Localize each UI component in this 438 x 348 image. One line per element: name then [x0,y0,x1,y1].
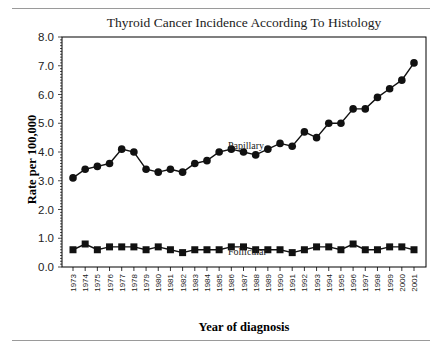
data-point [94,163,102,171]
y-tick-label: 8.0 [38,31,54,43]
x-tick-label: 1977 [118,273,127,291]
data-point [118,145,126,153]
data-point [276,140,284,148]
data-point [143,246,150,253]
x-tick-label: 1979 [142,273,151,291]
data-point [203,157,211,165]
x-tick-label: 1978 [130,273,139,291]
x-tick-label: 2000 [398,273,407,291]
x-tick-label: 1999 [386,273,395,291]
data-point [350,241,357,248]
y-tick-label: 1.0 [38,232,54,244]
data-point [313,134,321,142]
data-point [142,165,150,173]
y-tick-label: 0.0 [38,261,54,273]
data-point [167,165,175,173]
data-point [362,246,369,253]
data-point [69,174,77,182]
data-point [337,119,345,127]
bottom-rule [12,340,430,341]
x-tick-label: 1997 [361,273,370,291]
data-point [325,119,333,127]
series-line-papillary [73,63,414,178]
data-point [313,243,320,250]
y-tick-label: 4.0 [38,146,54,158]
data-point [386,243,393,250]
x-tick-label: 1976 [106,273,115,291]
x-tick-label: 1981 [166,273,175,291]
x-tick-label: 1983 [191,273,200,291]
data-point [191,246,198,253]
data-point [155,243,162,250]
data-point [216,246,223,253]
data-point [167,246,174,253]
x-tick-label: 1982 [179,273,188,291]
x-tick-label: 1987 [240,273,249,291]
data-point [81,165,89,173]
x-tick-label: 1991 [288,273,297,291]
data-point [301,128,309,136]
data-point [203,246,210,253]
data-point [325,243,332,250]
x-tick-label: 1984 [203,273,212,291]
x-tick-label: 1985 [215,273,224,291]
x-tick-label: 1994 [325,273,334,291]
x-tick-label: 1998 [373,273,382,291]
data-point [289,249,296,256]
y-tick-label: 5.0 [38,117,54,129]
data-point [179,168,187,176]
y-axis-label: Rate per 100,000 [25,90,40,230]
data-point [349,105,357,113]
y-tick-label: 7.0 [38,60,54,72]
x-tick-label: 1992 [300,273,309,291]
y-tick-label: 2.0 [38,204,54,216]
x-tick-label: 2001 [410,273,419,291]
data-point [94,246,101,253]
x-tick-label: 1995 [337,273,346,291]
data-point [337,246,344,253]
line-chart: 0.01.02.03.04.05.06.07.08.01973197419751… [0,0,438,348]
x-tick-label: 1973 [69,273,78,291]
data-point [191,160,199,168]
x-tick-label: 1996 [349,273,358,291]
data-point [411,246,418,253]
data-point [106,243,113,250]
data-point [130,148,138,156]
y-tick-label: 6.0 [38,89,54,101]
data-point [410,59,418,67]
data-point [179,249,186,256]
x-tick-label: 1993 [313,273,322,291]
data-point [106,160,114,168]
data-point [130,243,137,250]
x-tick-label: 1990 [276,273,285,291]
x-tick-label: 1975 [93,273,102,291]
data-point [398,76,406,84]
data-point [118,243,125,250]
data-point [82,241,89,248]
data-point [386,85,394,93]
x-tick-label: 1980 [154,273,163,291]
data-point [374,94,382,102]
data-point [301,246,308,253]
data-point [70,246,77,253]
data-point [154,168,162,176]
data-point [374,246,381,253]
y-tick-label: 3.0 [38,175,54,187]
x-tick-label: 1986 [227,273,236,291]
data-point [264,145,272,153]
data-point [361,105,369,113]
data-point [252,151,260,159]
data-point [288,142,296,150]
data-point [398,243,405,250]
data-point [277,246,284,253]
x-tick-label: 1974 [81,273,90,291]
data-point [215,148,223,156]
follicular-label: Follicular [228,246,268,257]
x-tick-label: 1989 [264,273,273,291]
x-axis-label: Year of diagnosis [62,320,426,335]
x-tick-label: 1988 [252,273,261,291]
papillary-label: Papillary [228,140,264,151]
